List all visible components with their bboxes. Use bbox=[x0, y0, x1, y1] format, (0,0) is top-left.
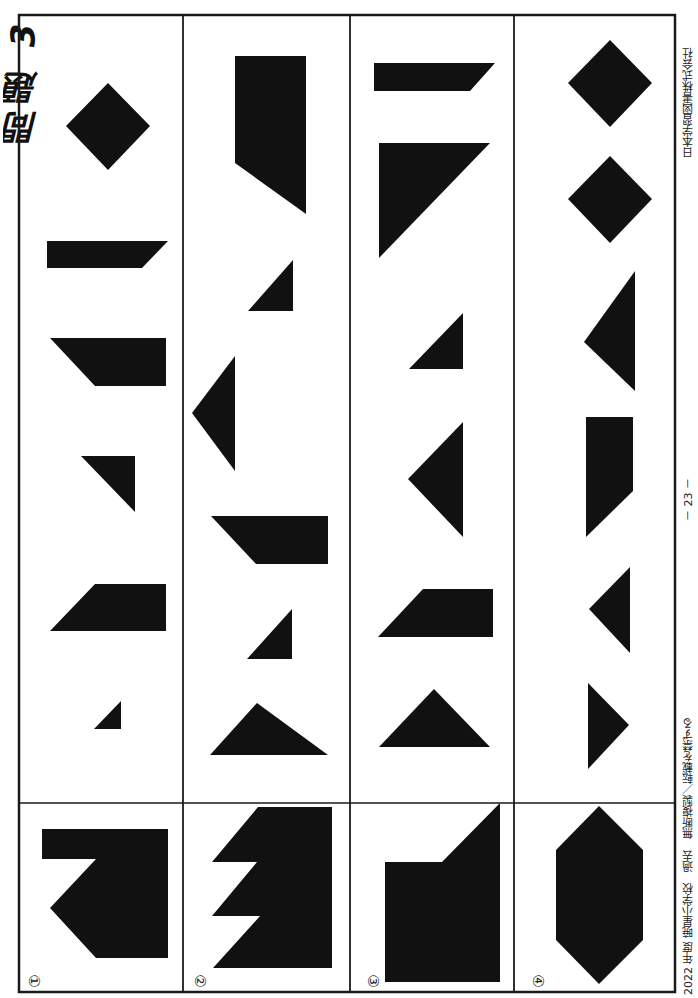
candidate-piece bbox=[50, 584, 166, 631]
problem-number-label: ① bbox=[25, 974, 43, 987]
shape-pieces bbox=[42, 40, 652, 984]
copyright-notice: 2022 年度 暁星小学校 過去 無断複製／転載を禁ずる bbox=[681, 685, 697, 995]
candidate-piece bbox=[81, 456, 135, 512]
candidate-piece bbox=[379, 689, 490, 747]
target-figure bbox=[212, 807, 332, 968]
candidate-piece bbox=[568, 40, 652, 127]
candidate-piece bbox=[568, 156, 652, 243]
candidate-piece bbox=[47, 241, 168, 268]
problem-number-label: ④ bbox=[529, 974, 547, 987]
candidate-piece bbox=[584, 271, 635, 391]
problem-number-label: ③ bbox=[364, 974, 382, 987]
candidate-piece bbox=[374, 63, 495, 91]
target-figure bbox=[556, 806, 643, 984]
candidate-piece bbox=[247, 609, 292, 659]
problem-4 bbox=[556, 40, 652, 984]
candidate-piece bbox=[192, 356, 235, 471]
candidate-piece bbox=[211, 516, 328, 564]
problem-1 bbox=[42, 83, 168, 958]
candidate-piece bbox=[210, 703, 328, 755]
candidate-piece bbox=[248, 260, 293, 311]
page-footer: 日本学習図書株式会社 － 23 － 2022 年度 暁星小学校 過去 無断複製／… bbox=[680, 0, 698, 998]
publisher-text: 日本学習図書株式会社 bbox=[681, 8, 697, 158]
candidate-piece bbox=[408, 422, 463, 537]
candidate-piece bbox=[588, 683, 629, 769]
target-figure bbox=[385, 803, 500, 982]
candidate-piece bbox=[586, 417, 633, 537]
candidate-piece bbox=[235, 56, 306, 214]
target-figure bbox=[42, 829, 168, 958]
candidate-piece bbox=[378, 589, 493, 637]
problem-number-label: ② bbox=[191, 974, 209, 987]
candidate-piece bbox=[589, 567, 630, 653]
page-number: － 23 － bbox=[681, 470, 697, 530]
worksheet-page: 問題 3 8 ①②③④ 日本学習図書株式会社 － 23 － 2022 年度 暁星… bbox=[0, 0, 698, 998]
candidate-piece bbox=[379, 143, 490, 258]
candidate-piece bbox=[50, 338, 166, 386]
candidate-piece bbox=[409, 313, 463, 369]
candidate-piece bbox=[94, 701, 121, 729]
problem-2 bbox=[192, 56, 332, 968]
problem-3 bbox=[374, 63, 500, 982]
candidate-piece bbox=[66, 83, 150, 170]
puzzle-figure-grid: ①②③④ bbox=[0, 0, 698, 998]
